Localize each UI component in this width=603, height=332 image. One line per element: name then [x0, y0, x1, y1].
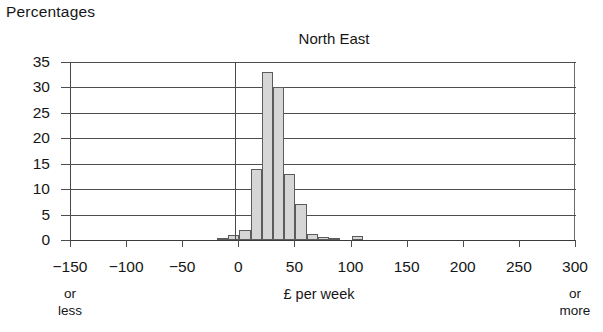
x-tick-mark	[351, 240, 352, 247]
histogram-bar	[217, 238, 228, 240]
left-endpoint-note: or less	[35, 285, 105, 319]
x-tick-mark	[126, 240, 127, 247]
y-axis-caption: Percentages	[6, 3, 95, 21]
x-tick-mark	[182, 240, 183, 247]
histogram-bar	[251, 169, 262, 240]
gridline	[71, 240, 576, 241]
y-tick-mark	[61, 62, 70, 63]
left-endpoint-note-line2: less	[35, 302, 105, 319]
x-tick-mark	[294, 240, 295, 247]
right-endpoint-note: or more	[540, 285, 603, 319]
gridline	[71, 87, 576, 88]
gridline	[71, 113, 576, 114]
plot-area	[70, 62, 575, 240]
left-endpoint-note-line1: or	[35, 285, 105, 302]
histogram-bar	[284, 174, 295, 240]
y-tick-mark	[61, 87, 70, 88]
x-tick-label: 300	[540, 258, 603, 276]
gridline	[71, 189, 576, 190]
histogram-bar	[307, 234, 318, 240]
histogram-bar	[239, 230, 250, 240]
y-tick-label: 5	[14, 206, 50, 224]
x-tick-mark	[463, 240, 464, 247]
y-tick-mark	[61, 164, 70, 165]
y-tick-mark	[61, 240, 70, 241]
y-tick-mark	[61, 189, 70, 190]
histogram-bar	[329, 238, 340, 240]
right-endpoint-note-line2: more	[540, 302, 603, 319]
y-tick-label: 20	[14, 129, 50, 147]
x-tick-mark	[238, 240, 239, 247]
y-tick-label: 10	[14, 180, 50, 198]
y-tick-mark	[61, 215, 70, 216]
x-tick-mark	[407, 240, 408, 247]
x-tick-mark	[519, 240, 520, 247]
gridline	[71, 138, 576, 139]
gridline	[71, 215, 576, 216]
gridline	[71, 62, 576, 63]
y-tick-label: 25	[14, 104, 50, 122]
y-tick-label: 0	[14, 231, 50, 249]
gridline	[71, 164, 576, 165]
chart-figure: Percentages North East 05101520253035 −1…	[0, 0, 603, 332]
zero-vertical-line	[235, 62, 236, 240]
y-tick-mark	[61, 138, 70, 139]
x-tick-mark	[575, 240, 576, 247]
histogram-bar	[352, 236, 363, 240]
histogram-bar	[318, 237, 329, 240]
histogram-bar	[273, 87, 284, 240]
histogram-bar	[295, 204, 306, 240]
y-tick-label: 30	[14, 78, 50, 96]
y-tick-mark	[61, 113, 70, 114]
right-endpoint-note-line1: or	[540, 285, 603, 302]
x-tick-mark	[70, 240, 71, 247]
y-tick-label: 35	[14, 53, 50, 71]
x-axis-title: £ per week	[234, 286, 404, 302]
chart-title: North East	[234, 30, 434, 47]
y-tick-label: 15	[14, 155, 50, 173]
histogram-bar	[262, 72, 273, 240]
